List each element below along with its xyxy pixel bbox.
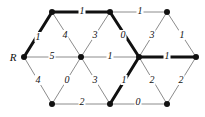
edge-weight-label: 2 (178, 75, 185, 85)
graph-figure: 1114303151140312220R (0, 0, 205, 117)
graph-node (193, 54, 199, 60)
graph-node (21, 54, 27, 60)
edge-weight-label: 0 (64, 75, 71, 85)
edge-weight-label: 3 (92, 30, 99, 40)
edge-weight-label: 1 (137, 6, 144, 16)
graph-node (78, 54, 84, 60)
graph-node (164, 101, 170, 107)
graph-canvas (0, 0, 205, 117)
graph-node (136, 54, 142, 60)
edge-weight-label: 1 (164, 51, 171, 61)
edge-weight-label: 1 (179, 30, 186, 40)
edge-weight-label: 2 (79, 97, 86, 107)
node-label-r: R (10, 52, 17, 63)
graph-node (107, 101, 113, 107)
edge-weight-label: 3 (92, 75, 99, 85)
edge-weight-label: 1 (107, 51, 114, 61)
edge-weight-label: 4 (62, 30, 69, 40)
edge-weight-label: 2 (149, 75, 156, 85)
edge-weight-label: 0 (120, 30, 127, 40)
edge-weight-label: 0 (135, 97, 142, 107)
edge-weight-label: 1 (35, 32, 42, 42)
graph-node (49, 101, 55, 107)
edge-weight-label: 1 (79, 6, 86, 16)
graph-node (164, 9, 170, 15)
graph-node (49, 9, 55, 15)
edge-weight-label: 5 (49, 51, 56, 61)
edge-weight-label: 3 (149, 30, 156, 40)
edge-weight-label: 4 (35, 75, 42, 85)
edge-weight-label: 1 (121, 75, 128, 85)
graph-node (107, 9, 113, 15)
